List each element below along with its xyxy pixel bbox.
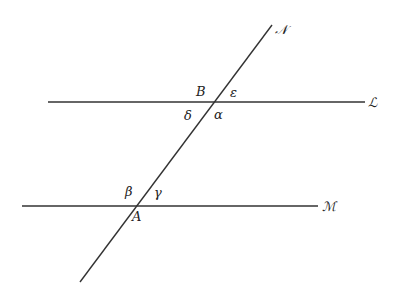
- transversal-n-label: 𝒩: [275, 22, 292, 37]
- transversal-n: [80, 25, 272, 282]
- point-a-label: A: [131, 209, 141, 224]
- point-b-label: B: [195, 84, 206, 99]
- angle-delta-label: δ: [184, 108, 192, 123]
- angle-alpha-label: α: [214, 107, 223, 122]
- line-l-label: ℒ: [368, 95, 378, 110]
- angle-beta-label: β: [124, 184, 133, 199]
- line-m-label: ℳ: [322, 199, 338, 214]
- angle-epsilon-label: ε: [230, 85, 237, 100]
- parallel-lines-diagram: ℒ ℳ 𝒩 B A ε δ α β γ: [0, 0, 401, 292]
- angle-gamma-label: γ: [154, 185, 162, 200]
